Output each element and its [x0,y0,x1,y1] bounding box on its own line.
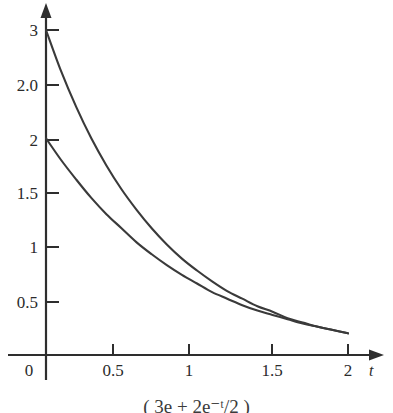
y-tick-label-3: 3 [0,22,38,39]
x-axis-arrowhead [369,350,384,361]
series-line-upper-curve [46,30,348,333]
y-axis-arrowhead [41,3,52,18]
chart-figure: 3 2.0 2 1.5 1 0.5 0 0.5 1 1.5 2 t ( 3e +… [0,0,393,413]
y-tick-label-2: 2 [0,132,38,149]
y-tick-label-1: 1 [0,239,38,256]
y-tick-label-2p0: 2.0 [0,77,38,94]
plot-canvas [0,0,393,413]
y-tick-label-1p5: 1.5 [0,185,38,202]
x-tick-label-0: 0 [16,362,42,379]
x-axis-label: t [369,363,373,379]
x-tick-label-1p5: 1.5 [249,362,295,379]
y-tick-marks [46,30,59,302]
series-line-lower-curve [46,138,348,333]
x-tick-label-0p5: 0.5 [90,362,136,379]
y-tick-label-0p5: 0.5 [0,294,38,311]
x-tick-label-1: 1 [176,362,202,379]
axes-group [8,3,384,380]
x-tick-label-2: 2 [335,362,361,379]
caption-partial-formula: ( 3e + 2e⁻ᵗ/2 ) [0,396,393,413]
caption-clip: ( 3e + 2e⁻ᵗ/2 ) [0,396,393,413]
